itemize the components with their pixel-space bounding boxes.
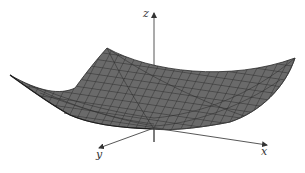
x-axis-label: x [261,145,268,158]
y-axis-label: y [95,148,103,161]
axes-front [99,128,267,148]
z-axis-label: z [142,7,149,20]
paraboloid-figure: z y x [0,0,305,173]
x-axis-line [154,128,267,145]
y-axis-line [99,128,154,148]
paraboloid-surface [10,48,295,130]
